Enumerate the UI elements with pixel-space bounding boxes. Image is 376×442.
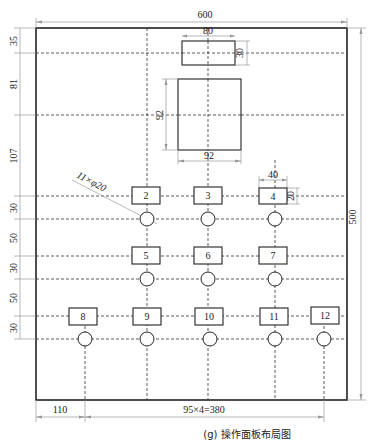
top-display-cutout: 80 30	[182, 25, 250, 65]
hole-icon	[268, 332, 282, 346]
hole-icon	[140, 212, 154, 226]
svg-text:80: 80	[203, 25, 213, 36]
svg-text:12: 12	[320, 310, 330, 321]
dim-height-total: 500	[347, 28, 366, 400]
dim-left-stack: 35 81 107 30 50 30 50 30	[8, 28, 36, 339]
hole-icon	[203, 332, 217, 346]
main-meter-cutout: 92 92	[154, 79, 241, 164]
svg-text:2: 2	[144, 190, 149, 201]
button-label-10: 10	[195, 308, 223, 325]
button-label-2: 2	[132, 187, 160, 204]
svg-text:8: 8	[81, 311, 86, 322]
hole-icon	[268, 212, 282, 226]
hole-icon	[201, 272, 215, 286]
button-label-12: 12	[311, 307, 339, 324]
hole-icon	[268, 272, 282, 286]
hole-icon	[201, 212, 215, 226]
button-label-7: 7	[259, 247, 287, 264]
svg-text:30: 30	[8, 323, 19, 333]
svg-text:30: 30	[8, 263, 19, 273]
svg-text:10: 10	[204, 311, 214, 322]
button-label-8: 8	[69, 308, 97, 325]
dim-bottom: 110 95×4=380	[36, 400, 324, 422]
button-label-5: 5	[132, 247, 160, 264]
svg-text:600: 600	[198, 9, 213, 20]
svg-text:40: 40	[268, 169, 278, 180]
button-label-11: 11	[260, 308, 288, 325]
svg-text:92: 92	[154, 110, 165, 120]
hole-icon	[140, 272, 154, 286]
svg-text:81: 81	[8, 79, 19, 89]
svg-text:50: 50	[8, 233, 19, 243]
hole-icon	[78, 332, 92, 346]
button-label-4: 4	[259, 188, 287, 204]
button-label-3: 3	[194, 187, 222, 204]
figure-caption: (g) 操作面板布局图	[203, 428, 290, 440]
svg-text:30: 30	[8, 203, 19, 213]
svg-text:107: 107	[8, 149, 19, 164]
svg-text:6: 6	[206, 250, 211, 261]
svg-text:50: 50	[8, 293, 19, 303]
button-label-9: 9	[133, 308, 161, 325]
hole-icon	[317, 332, 331, 346]
hole-icon	[140, 332, 154, 346]
svg-text:95×4=380: 95×4=380	[183, 404, 224, 415]
svg-text:30: 30	[234, 48, 245, 58]
svg-text:9: 9	[145, 311, 150, 322]
svg-text:500: 500	[347, 210, 358, 225]
panel-layout-drawing: 600 500 35 81 107 30 50 30 50 30	[0, 0, 376, 442]
dim-width-total: 600	[36, 9, 347, 28]
svg-text:7: 7	[271, 250, 276, 261]
svg-text:92: 92	[204, 150, 214, 161]
svg-text:110: 110	[53, 404, 68, 415]
svg-text:35: 35	[8, 36, 19, 46]
svg-text:5: 5	[144, 250, 149, 261]
svg-text:3: 3	[206, 190, 211, 201]
button-label-6: 6	[194, 247, 222, 264]
svg-text:11: 11	[269, 311, 279, 322]
svg-text:4: 4	[271, 191, 276, 202]
